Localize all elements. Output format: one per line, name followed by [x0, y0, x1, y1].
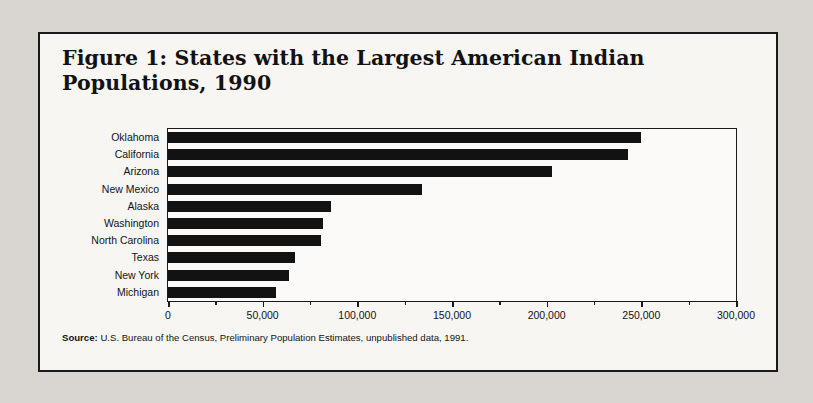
x-axis-tick-label: 100,000 — [338, 309, 376, 321]
y-axis-label: Oklahoma — [51, 129, 163, 146]
bar — [168, 252, 295, 263]
bar — [168, 235, 321, 246]
x-axis-tick-label: 200,000 — [528, 309, 566, 321]
bar-row — [168, 163, 736, 180]
bar — [168, 184, 422, 195]
bar — [168, 166, 552, 177]
y-axis-label: Arizona — [51, 163, 163, 180]
y-axis-label: Texas — [51, 249, 163, 266]
x-axis-major-ticks — [168, 301, 736, 307]
x-axis-tick — [641, 301, 643, 307]
figure-title-line-1: Figure 1: States with the Largest Americ… — [62, 46, 752, 71]
x-axis-tick — [168, 301, 170, 307]
bar-row — [168, 129, 736, 146]
bar-row — [168, 181, 736, 198]
y-axis-labels: OklahomaCaliforniaArizonaNew MexicoAlask… — [51, 129, 163, 301]
y-axis-label: California — [51, 146, 163, 163]
bar — [168, 287, 276, 298]
x-axis-tick — [736, 301, 738, 307]
bar-row — [168, 284, 736, 301]
x-axis-tick — [263, 301, 265, 307]
x-axis-tick-label: 50,000 — [247, 309, 279, 321]
y-axis-label: North Carolina — [51, 232, 163, 249]
bar-row — [168, 267, 736, 284]
figure-title: Figure 1: States with the Largest Americ… — [62, 46, 752, 96]
y-axis-label: New Mexico — [51, 181, 163, 198]
bar — [168, 201, 331, 212]
y-axis-label: Michigan — [51, 284, 163, 301]
x-axis-tick-label: 150,000 — [433, 309, 471, 321]
figure-title-line-2: Populations, 1990 — [62, 71, 752, 96]
bar — [168, 218, 323, 229]
bar-row — [168, 249, 736, 266]
bar — [168, 149, 628, 160]
bar-row — [168, 232, 736, 249]
bar — [168, 132, 641, 143]
source-label: Source: — [62, 332, 98, 343]
x-axis-tick-label: 250,000 — [622, 309, 660, 321]
source-note: Source: U.S. Bureau of the Census, Preli… — [62, 332, 762, 343]
x-axis-tick — [452, 301, 454, 307]
bar-series — [168, 129, 736, 301]
bar — [168, 270, 289, 281]
x-axis-tick-labels: 050,000100,000150,000200,000250,000300,0… — [168, 309, 736, 323]
bar-row — [168, 146, 736, 163]
x-axis-tick — [547, 301, 549, 307]
figure-box: Figure 1: States with the Largest Americ… — [38, 32, 778, 372]
x-axis-tick-label: 0 — [165, 309, 171, 321]
y-axis-label: Alaska — [51, 198, 163, 215]
x-axis-tick — [357, 301, 359, 307]
x-axis-tick-label: 300,000 — [717, 309, 755, 321]
y-axis-label: New York — [51, 267, 163, 284]
chart-plot-area: OklahomaCaliforniaArizonaNew MexicoAlask… — [167, 128, 737, 302]
y-axis-label: Washington — [51, 215, 163, 232]
source-text: U.S. Bureau of the Census, Preliminary P… — [98, 332, 469, 343]
bar-row — [168, 198, 736, 215]
bar-row — [168, 215, 736, 232]
